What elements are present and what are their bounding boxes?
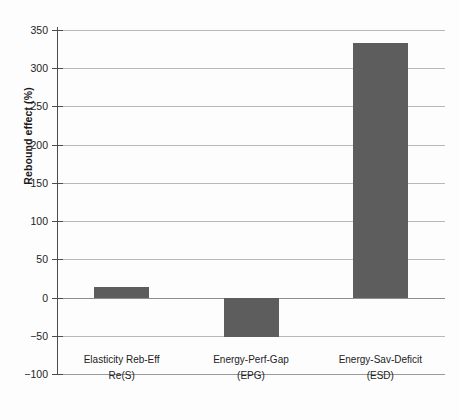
x-tick-label-0: Elasticity Reb-EffRe(S) [57,352,186,383]
x-tick-label-2: Energy-Sav-Deficit(ESD) [316,352,445,383]
x-tick-label-code: (EPG) [186,368,315,384]
y-tick-label--50: −50 [30,330,48,342]
bar-chart-figure: Rebound effect (%) 350300250200150100500… [0,0,459,420]
y-tick-mark-0 [52,298,63,299]
bar-EPG [224,298,279,338]
y-tick-label-300: 300 [30,62,48,74]
y-tick-label-250: 250 [30,100,48,112]
x-tick-label-code: Re(S) [57,368,186,384]
y-tick-label-200: 200 [30,139,48,151]
y-tick-mark-250 [52,106,63,107]
bar-ESD [353,43,408,298]
x-tick-label-1: Energy-Perf-Gap(EPG) [186,352,315,383]
y-tick-mark-150 [52,183,63,184]
gridline-350 [57,30,445,31]
y-tick-label-50: 50 [36,253,48,265]
y-tick-mark-300 [52,68,63,69]
y-axis-title: Rebound effect (%) [22,56,34,216]
x-tick-label-name: Energy-Perf-Gap [186,352,315,368]
plot-area: 350300250200150100500−50−100 [57,30,445,374]
y-tick-label--100: −100 [24,368,48,380]
y-axis-spine [57,27,58,375]
x-tick-label-name: Energy-Sav-Deficit [316,352,445,368]
x-tick-label-code: (ESD) [316,368,445,384]
y-tick-label-0: 0 [42,292,48,304]
y-tick-mark-200 [52,145,63,146]
y-tick-mark-100 [52,221,63,222]
y-tick-mark--50 [52,336,63,337]
y-tick-label-150: 150 [30,177,48,189]
y-tick-label-100: 100 [30,215,48,227]
x-tick-label-name: Elasticity Reb-Eff [57,352,186,368]
y-tick-label-350: 350 [30,24,48,36]
y-tick-mark-50 [52,259,63,260]
y-tick-mark-350 [52,30,63,31]
bar-ReS [94,287,149,298]
